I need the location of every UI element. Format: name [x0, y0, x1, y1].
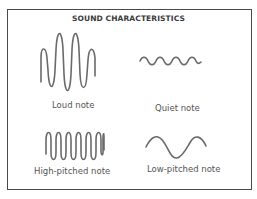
quiet-note-label: Quiet note: [155, 103, 200, 113]
high-pitched-note-waveform: [45, 130, 107, 162]
loud-note-waveform: [40, 30, 102, 94]
high-pitched-note-label: High-pitched note: [34, 166, 110, 176]
diagram-title: SOUND CHARACTERISTICS: [0, 14, 257, 23]
low-pitched-note-waveform: [145, 135, 208, 161]
loud-note-label: Loud note: [52, 100, 94, 110]
low-pitched-note-label: Low-pitched note: [147, 164, 220, 174]
quiet-note-waveform: [139, 56, 203, 66]
